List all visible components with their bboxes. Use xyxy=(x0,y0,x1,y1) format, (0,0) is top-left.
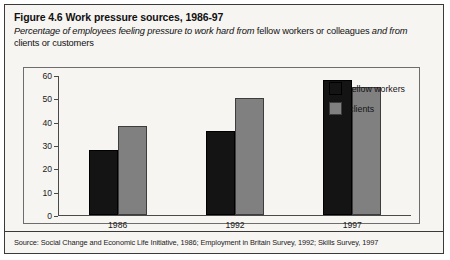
plot-area: 0102030405060 198619921997 fellow worker… xyxy=(23,67,420,224)
bar xyxy=(206,131,235,215)
source-note: Source: Social Change and Economic Life … xyxy=(14,238,378,247)
y-tick-label: 20 xyxy=(42,164,52,174)
figure-header: Figure 4.6 Work pressure sources, 1986-9… xyxy=(14,11,434,49)
figure-title: Figure 4.6 Work pressure sources, 1986-9… xyxy=(14,11,434,23)
legend-item: fellow workers xyxy=(329,82,405,95)
legend-item: clients xyxy=(329,102,405,115)
legend-label: fellow workers xyxy=(349,84,405,94)
bar-group: 1986 xyxy=(59,76,176,215)
bar xyxy=(235,98,264,215)
x-axis-line xyxy=(58,215,411,216)
footer-divider xyxy=(5,231,443,232)
legend-swatch xyxy=(329,82,342,95)
chart-legend: fellow workersclients xyxy=(329,82,405,115)
y-tick-label: 50 xyxy=(42,94,52,104)
y-tick-mark xyxy=(54,216,58,217)
y-tick-label: 0 xyxy=(47,211,52,221)
y-tick-mark xyxy=(54,123,58,124)
y-tick-label: 30 xyxy=(42,141,52,151)
y-tick-mark xyxy=(54,146,58,147)
bar xyxy=(118,126,147,215)
figure-container: Figure 4.6 Work pressure sources, 1986-9… xyxy=(4,4,444,254)
subtitle-part-1: Percentage of employees feeling pressure… xyxy=(14,26,254,36)
y-tick-mark xyxy=(54,99,58,100)
subtitle-part-4: clients or customers xyxy=(14,38,94,48)
y-tick-mark xyxy=(54,193,58,194)
x-tick-label: 1997 xyxy=(343,220,362,230)
bar xyxy=(89,150,118,215)
y-tick-label: 40 xyxy=(42,118,52,128)
legend-swatch xyxy=(329,102,342,115)
legend-label: clients xyxy=(349,104,374,114)
x-tick-label: 1986 xyxy=(108,220,127,230)
y-tick-mark xyxy=(54,76,58,77)
y-tick-mark xyxy=(54,169,58,170)
y-tick-label: 60 xyxy=(42,71,52,81)
y-tick-label: 10 xyxy=(42,188,52,198)
x-tick-label: 1992 xyxy=(225,220,244,230)
subtitle-part-3: and from xyxy=(372,26,408,36)
bar-group: 1992 xyxy=(176,76,293,215)
figure-subtitle: Percentage of employees feeling pressure… xyxy=(14,26,434,49)
subtitle-part-2: fellow workers or colleagues xyxy=(257,26,370,36)
